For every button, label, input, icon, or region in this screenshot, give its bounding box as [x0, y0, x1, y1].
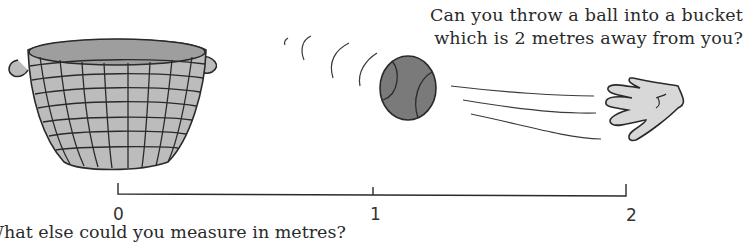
- hand-icon: [606, 78, 684, 140]
- ball-icon: [380, 56, 436, 120]
- scale-label-0: 0: [113, 204, 124, 224]
- scale-label-1: 1: [370, 204, 381, 224]
- motion-lines-icon: [285, 36, 377, 86]
- scale-label-2: 2: [626, 205, 637, 225]
- throw-lines-icon: [451, 86, 601, 139]
- distance-scale: [118, 183, 626, 196]
- basket-icon: [9, 39, 216, 170]
- footer-question: What else could you measure in metres?: [0, 222, 346, 242]
